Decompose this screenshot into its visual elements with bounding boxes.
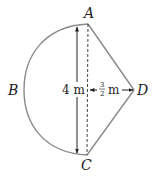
measure-vertical: 4 m (62, 83, 85, 97)
label-d: D (136, 82, 148, 98)
segment-ad (88, 24, 134, 90)
fraction-denominator: 2 (100, 90, 104, 98)
label-b: B (7, 82, 18, 98)
label-c: C (81, 157, 92, 173)
measure-horizontal-unit: m (108, 83, 120, 97)
diagram-canvas: A B C D 4 m 3 2 m (0, 0, 153, 178)
dashed-line-ac (87, 24, 88, 155)
label-a: A (82, 5, 94, 21)
fraction-numerator: 3 (100, 81, 104, 89)
segment-dc (87, 90, 134, 155)
